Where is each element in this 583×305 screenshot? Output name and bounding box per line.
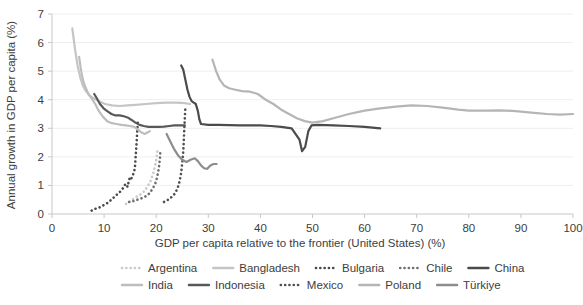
y-tick-label-2: 2 [38,151,44,163]
x-tick-label-10: 10 [98,222,111,234]
legend-label-indonesia[interactable]: Indonesia [215,279,265,291]
legend-label-bangladesh[interactable]: Bangladesh [239,262,300,274]
y-tick-label-6: 6 [38,37,44,49]
legend-label-argentina[interactable]: Argentina [148,262,198,274]
y-tick-label-1: 1 [38,179,44,191]
growth-vs-gdp-line-chart: 01234567 0102030405060708090100 Annual g… [0,0,583,305]
x-tick-label-100: 100 [563,222,582,234]
legend-label-china[interactable]: China [494,262,525,274]
legend-label-trkiye[interactable]: Türkiye [463,279,501,291]
y-tick-label-4: 4 [38,94,45,106]
y-tick-label-5: 5 [38,65,44,77]
x-tick-label-80: 80 [462,222,475,234]
legend-label-bulgaria[interactable]: Bulgaria [342,262,385,274]
x-tick-label-20: 20 [150,222,163,234]
y-tick-label-0: 0 [38,208,44,220]
x-tick-label-30: 30 [202,222,215,234]
chart-background [0,0,583,305]
y-tick-label-7: 7 [38,8,44,20]
chart-container: 01234567 0102030405060708090100 Annual g… [0,0,583,305]
legend-label-poland[interactable]: Poland [385,279,421,291]
y-axis-label: Annual growth in GDP per capita (%) [5,21,17,210]
legend-label-mexico[interactable]: Mexico [307,279,343,291]
legend-label-chile[interactable]: Chile [426,262,452,274]
x-tick-label-90: 90 [515,222,528,234]
legend-label-india[interactable]: India [148,279,174,291]
x-axis-label: GDP per capita relative to the frontier … [155,237,446,249]
y-tick-label-3: 3 [38,122,44,134]
x-tick-label-60: 60 [358,222,371,234]
x-tick-label-0: 0 [49,222,55,234]
x-tick-label-70: 70 [410,222,423,234]
x-tick-label-50: 50 [306,222,319,234]
x-tick-label-40: 40 [254,222,267,234]
